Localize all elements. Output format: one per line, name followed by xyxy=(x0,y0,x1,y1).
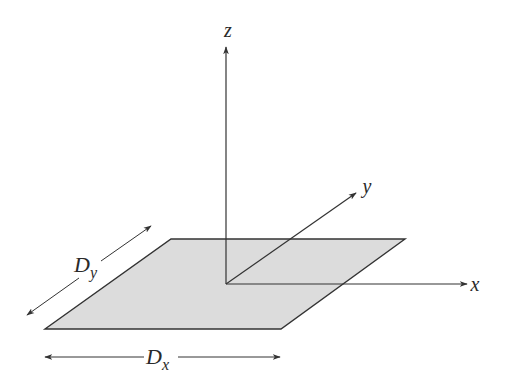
dx-label: Dx xyxy=(145,344,169,373)
dx-label-main: D xyxy=(145,344,162,369)
dy-label-subscript: y xyxy=(88,264,98,282)
dy-label: Dy xyxy=(73,252,98,282)
y-axis-label: y xyxy=(361,175,372,198)
dy-label-main: D xyxy=(73,252,90,277)
z-axis-label: z xyxy=(223,19,232,41)
x-axis-label: x xyxy=(470,273,480,295)
dx-label-subscript: x xyxy=(161,356,169,373)
dy-arrow-upper xyxy=(101,226,151,261)
coordinate-diagram: z y x Dy Dx xyxy=(0,0,506,383)
